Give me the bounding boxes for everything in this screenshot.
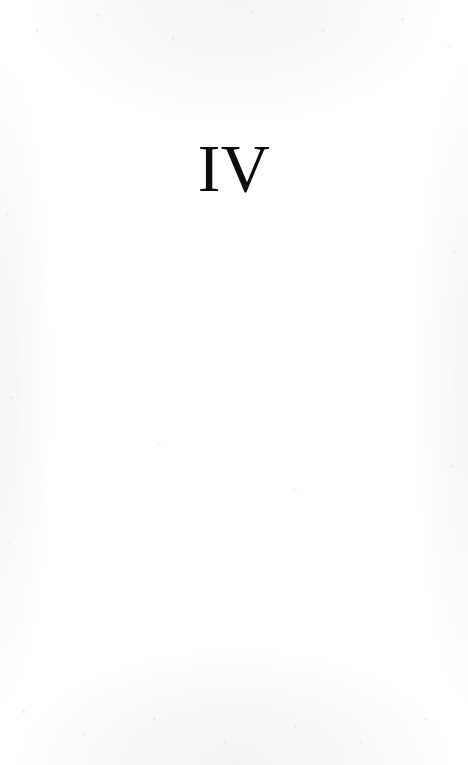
part-number-block: IV: [0, 0, 468, 198]
part-number-roman-numeral: IV: [198, 134, 270, 202]
book-page: IV: [0, 0, 468, 765]
